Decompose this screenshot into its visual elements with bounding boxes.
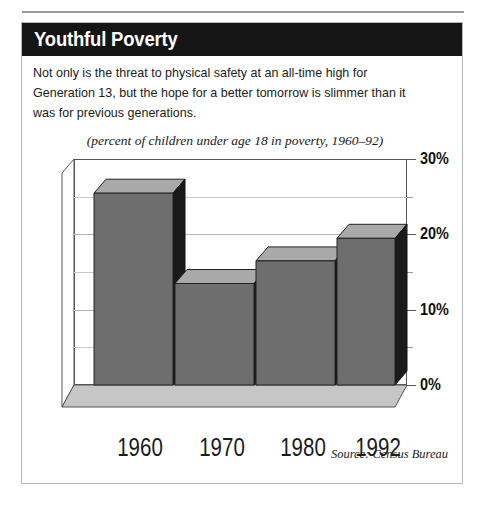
page-title: Youthful Poverty [34, 27, 178, 51]
source-attribution: Source: Census Bureau [331, 447, 448, 462]
chart-subtitle: (percent of children under age 18 in pov… [70, 133, 400, 149]
bar-1970 [175, 270, 266, 386]
bar-1980 [256, 247, 347, 385]
top-rule-divider [22, 11, 464, 13]
xtick-label-1970: 1970 [181, 433, 263, 462]
bar-series [62, 159, 462, 429]
figure-page: Youthful Poverty Not only is the threat … [0, 0, 486, 508]
deck-paragraph: Not only is the threat to physical safet… [33, 63, 419, 123]
plot-area: 30% 20% 10% 0% [62, 159, 462, 429]
title-band: Youthful Poverty [22, 23, 462, 56]
bar-1992 [337, 224, 407, 385]
chart-container: (percent of children under age 18 in pov… [22, 133, 462, 443]
xtick-label-1960: 1960 [99, 433, 181, 462]
bar-1960 [94, 179, 185, 385]
figure-card: Youthful Poverty Not only is the threat … [21, 22, 463, 484]
